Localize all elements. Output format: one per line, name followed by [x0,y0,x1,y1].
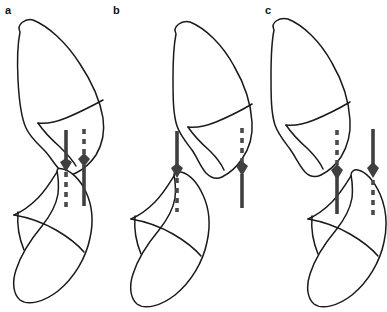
panel-c-lower-inner-curve-3 [312,216,318,254]
panel-c-lower-inner-curve-1 [308,176,351,219]
figure-container: a b [0,0,387,312]
panel-a-lower-inner-curve-3 [18,212,24,250]
panel-b-lower-inner-curve-1 [131,176,174,219]
panel-label-b: b [113,4,120,16]
panel-label-c: c [265,4,271,16]
panel-a-lower-inner-curve-1 [14,172,57,215]
panel-a-lower-bone-outline [14,168,92,302]
panel-a-upper-bone-outline [18,20,104,175]
panel-a: a [5,4,104,303]
figure-canvas: a b [0,0,387,312]
panel-b-lower-bone-outline [131,171,209,306]
panel-b: b [113,4,252,307]
panel-c: c [265,4,386,307]
panel-b-lower-inner-curve-3 [135,216,141,254]
panel-label-a: a [5,4,12,16]
